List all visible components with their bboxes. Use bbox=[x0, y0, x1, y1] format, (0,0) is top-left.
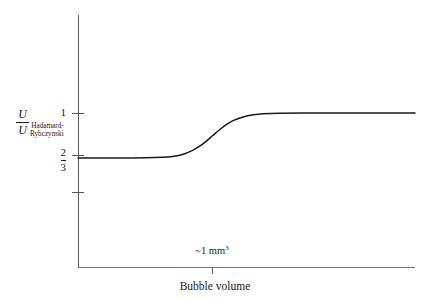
y-tick-unlabeled bbox=[72, 192, 84, 193]
y-axis-title-subscript-line2: Rybczynski bbox=[30, 130, 64, 138]
y-axis-title-subscript: Hadamard- Rybczynski bbox=[30, 108, 64, 139]
fraction-denominator: 3 bbox=[61, 162, 67, 174]
chart-figure: 1 2 3 U U Hadamard- Rybczynski ~1 mm3 Bu… bbox=[0, 0, 430, 299]
y-axis-title-subscript-line1: Hadamard- bbox=[31, 122, 63, 130]
y-axis-title-ratio: U U bbox=[16, 108, 29, 137]
y-axis-title: U U Hadamard- Rybczynski bbox=[16, 108, 74, 139]
y-axis-title-denominator: U bbox=[16, 124, 29, 137]
y-axis-title-numerator: U bbox=[16, 108, 29, 121]
fraction-numerator: 2 bbox=[61, 147, 67, 159]
data-curve-path bbox=[78, 113, 415, 158]
x-tick-label-transition: ~1 mm3 bbox=[195, 246, 228, 257]
y-axis-line bbox=[78, 15, 79, 268]
y-tick-two-thirds bbox=[72, 155, 84, 156]
x-axis-line bbox=[78, 267, 415, 268]
fraction-two-thirds: 2 3 bbox=[61, 147, 67, 173]
x-tick-label-exponent: 3 bbox=[225, 244, 229, 252]
x-tick-transition bbox=[212, 267, 213, 274]
y-tick-label-two-thirds: 2 3 bbox=[61, 147, 67, 173]
x-axis-title: Bubble volume bbox=[0, 280, 430, 292]
x-tick-label-text: ~1 mm bbox=[195, 245, 225, 256]
